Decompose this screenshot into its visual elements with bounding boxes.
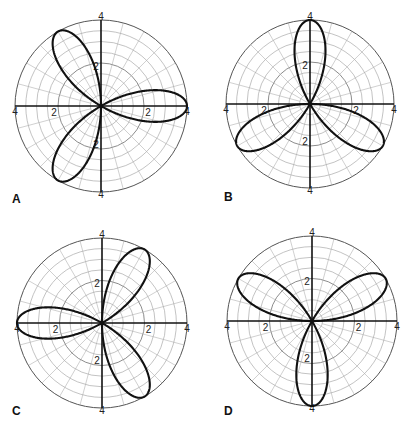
grid-spoke — [252, 261, 305, 314]
r-tick-label: 2 — [302, 136, 308, 147]
r-tick-label: 2 — [53, 324, 59, 335]
r-tick-label: 4 — [99, 229, 105, 240]
r-tick-label: 4 — [309, 227, 315, 238]
grid-spoke — [310, 62, 383, 104]
r-tick-label: 4 — [184, 323, 190, 334]
r-tick-label: 2 — [304, 276, 310, 287]
grid-spoke — [320, 261, 373, 314]
r-tick-label: 4 — [99, 405, 105, 416]
r-tick-label: 4 — [307, 185, 313, 196]
polar-plot-c: 44442222 — [14, 229, 190, 416]
panel-label-a: A — [12, 192, 21, 206]
r-tick-label: 4 — [391, 104, 397, 115]
grid-spoke — [110, 263, 163, 316]
polar-plot-d: 44442222 — [224, 227, 400, 414]
grid-spoke — [101, 32, 144, 106]
r-tick-label: 4 — [98, 189, 104, 200]
r-tick-label: 2 — [51, 107, 57, 118]
grid-spoke — [251, 111, 303, 163]
grid-spoke — [238, 321, 312, 364]
r-tick-label: 2 — [94, 355, 100, 366]
polar-rose-figure: 44442222444422224444222244442222 — [0, 0, 406, 422]
grid-spoke — [237, 62, 310, 104]
r-tick-label: 4 — [12, 106, 18, 117]
r-tick-label: 2 — [146, 324, 152, 335]
r-tick-label: 4 — [309, 403, 315, 414]
polar-plot-b: 44442222 — [223, 11, 397, 196]
polar-plot-a: 44442222 — [12, 11, 190, 200]
grid-spoke — [40, 45, 93, 98]
grid-spoke — [101, 106, 144, 180]
r-tick-label: 4 — [394, 321, 400, 332]
grid-spoke — [312, 321, 386, 364]
r-tick-label: 4 — [98, 11, 104, 22]
r-tick-label: 2 — [145, 107, 151, 118]
grid-spoke — [40, 114, 93, 167]
r-tick-label: 2 — [263, 322, 269, 333]
r-tick-label: 2 — [94, 278, 100, 289]
panel-label-b: B — [224, 190, 233, 204]
panel-label-c: C — [12, 404, 21, 418]
r-tick-label: 4 — [224, 321, 230, 332]
r-tick-label: 2 — [302, 60, 308, 71]
r-tick-label: 4 — [223, 104, 229, 115]
r-tick-label: 2 — [356, 322, 362, 333]
grid-spoke — [110, 331, 163, 384]
panel-label-d: D — [224, 404, 233, 418]
r-tick-label: 2 — [304, 353, 310, 364]
grid-spoke — [317, 111, 369, 163]
